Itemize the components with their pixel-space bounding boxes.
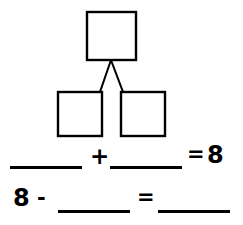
equals-sign-1: = — [187, 144, 204, 165]
addition-equation: + = 8 — [0, 142, 243, 182]
part-box-left[interactable] — [58, 92, 102, 136]
connector-line-right — [111, 60, 123, 92]
plus-sign: + — [90, 145, 109, 168]
part-box-right[interactable] — [121, 92, 165, 136]
subtraction-equation: 8 - = — [0, 182, 243, 222]
subtrahend-blank[interactable] — [58, 210, 130, 213]
equals-sign-2: = — [137, 187, 154, 208]
addend-1-blank[interactable] — [10, 166, 82, 169]
difference-blank[interactable] — [158, 210, 230, 213]
whole-box[interactable] — [87, 12, 136, 60]
sum-value: 8 — [207, 143, 223, 167]
minus-sign: - — [37, 188, 45, 209]
addend-2-blank[interactable] — [110, 166, 182, 169]
worksheet-page: + = 8 8 - = — [0, 0, 243, 225]
minuend-value: 8 — [13, 186, 29, 210]
connector-line-left — [100, 60, 111, 92]
number-bond-diagram — [0, 0, 243, 145]
